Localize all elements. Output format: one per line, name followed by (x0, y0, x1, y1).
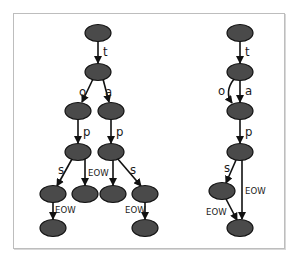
node-eow (227, 220, 253, 237)
label-eow-mid: EOW (88, 167, 109, 178)
label-a: a (105, 84, 112, 99)
label-eow-from-s: EOW (206, 206, 227, 217)
label-s-left: s (58, 162, 64, 177)
node-tops-eow (40, 220, 66, 237)
node-t (227, 64, 253, 81)
label-t: t (103, 44, 108, 59)
node-to (65, 103, 91, 120)
node-top-eow (72, 186, 98, 203)
node-p (227, 144, 253, 161)
edge-eow-from-s (226, 199, 237, 220)
node-taps-eow (132, 220, 158, 237)
label-eow-bottom-left: EOW (55, 204, 76, 215)
label-p: p (245, 124, 252, 139)
label-o: o (218, 83, 225, 98)
node-taps (132, 186, 158, 203)
trie-dawg-diagram: t o a p p s EOW s EOW EOW t o a p s EOW … (0, 0, 295, 260)
edge-o-curved (228, 79, 234, 103)
label-t: t (245, 44, 250, 59)
label-a: a (245, 83, 252, 98)
node-tops (40, 186, 66, 203)
edge-s-right (117, 158, 141, 186)
label-eow-direct: EOW (245, 185, 266, 196)
node-root (227, 25, 253, 42)
node-top (65, 144, 91, 161)
node-s (209, 183, 235, 200)
label-eow-bottom-right: EOW (125, 204, 146, 215)
node-tap (98, 144, 124, 161)
node-t (85, 64, 111, 81)
label-s: s (224, 160, 230, 175)
label-p-right: p (116, 124, 123, 139)
node-ta (98, 103, 124, 120)
label-p-left: p (83, 124, 90, 139)
node-root (85, 25, 111, 42)
node-to-ta (227, 103, 253, 120)
label-s-right: s (130, 162, 136, 177)
node-tap-eow (100, 186, 126, 203)
label-o: o (79, 84, 86, 99)
